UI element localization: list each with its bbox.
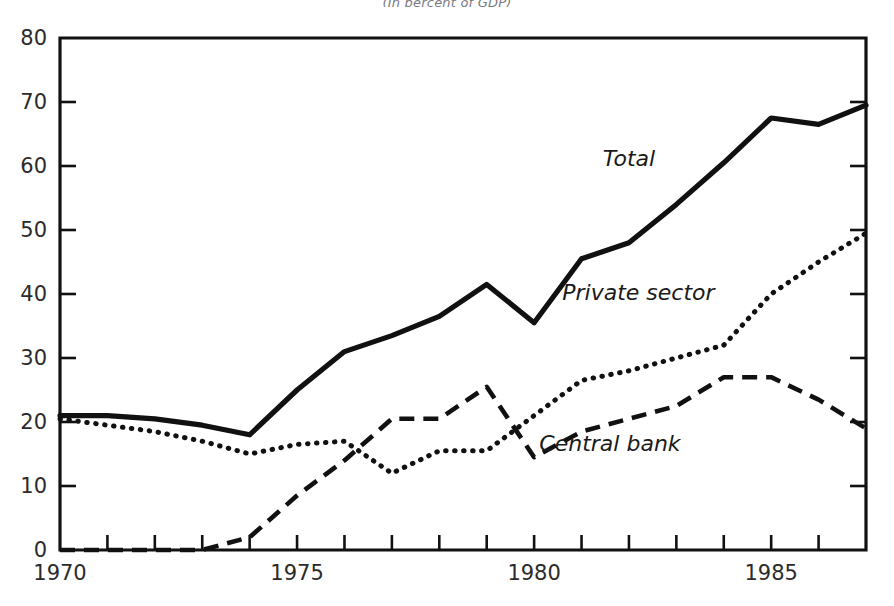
series-label-total: Total — [603, 146, 655, 171]
x-axis-tick-labels: 1970197519801985 — [33, 561, 798, 585]
series-line-central-bank — [60, 377, 866, 550]
line-chart: 01020304050607080 1970197519801985 Total… — [0, 0, 894, 606]
svg-text:10: 10 — [20, 474, 47, 498]
axis-frame — [60, 38, 866, 550]
series-label-central-bank: Central bank — [539, 431, 681, 456]
svg-text:1980: 1980 — [507, 561, 560, 585]
svg-text:20: 20 — [20, 410, 47, 434]
svg-text:70: 70 — [20, 90, 47, 114]
series-line-private-sector — [60, 233, 866, 473]
svg-text:1985: 1985 — [744, 561, 797, 585]
svg-text:30: 30 — [20, 346, 47, 370]
chart-page: (In percent of GDP) 01020304050607080 19… — [0, 0, 894, 606]
svg-text:40: 40 — [20, 282, 47, 306]
svg-text:50: 50 — [20, 218, 47, 242]
y-axis-tick-labels: 01020304050607080 — [20, 26, 47, 562]
series-layer — [60, 105, 866, 550]
svg-text:1970: 1970 — [33, 561, 86, 585]
svg-text:0: 0 — [34, 538, 47, 562]
series-line-total — [60, 105, 866, 435]
y-axis-tick-marks — [60, 102, 866, 486]
svg-text:60: 60 — [20, 154, 47, 178]
series-label-private-sector: Private sector — [562, 280, 716, 305]
svg-text:1975: 1975 — [270, 561, 323, 585]
svg-text:80: 80 — [20, 26, 47, 50]
